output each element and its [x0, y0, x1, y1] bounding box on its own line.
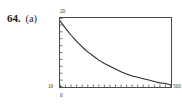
plot-canvas [60, 18, 171, 87]
y-axis-ticks [60, 18, 63, 86]
exercise-number: 64. [7, 12, 20, 24]
exercise-part-letter: (a) [25, 13, 37, 24]
exercise-label: 64. (a) [7, 12, 37, 24]
y-axis-min-label: 10 [48, 84, 53, 89]
decay-curve [60, 21, 171, 85]
x-axis-max-label: 500 [173, 84, 181, 89]
y-axis-max-label: 20 [60, 9, 65, 14]
x-axis-min-label: 0 [60, 93, 63, 98]
plot-frame [59, 17, 172, 88]
figure-container: 64. (a) 20 10 0 500 [0, 0, 182, 110]
x-axis-ticks [60, 84, 170, 87]
